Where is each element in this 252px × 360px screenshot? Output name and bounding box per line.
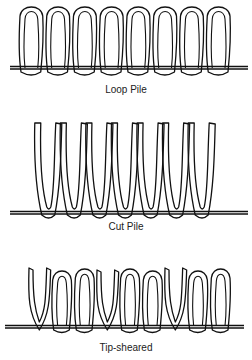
- tip-sheared-illustration: [0, 260, 252, 340]
- loop-pile-diagram: Loop Pile: [0, 0, 252, 100]
- loop-inner: [131, 12, 146, 69]
- cut-tuft: [35, 123, 62, 218]
- tip-loop-outer: [188, 271, 208, 333]
- loop-outer: [206, 7, 230, 75]
- loop-outer: [73, 7, 97, 75]
- loop-outer: [19, 7, 43, 75]
- tip-sheared-diagram: Tip-sheared: [0, 260, 252, 360]
- tip-loop-inner: [193, 276, 204, 326]
- tip-cut-tuft: [165, 268, 187, 330]
- loop-outer: [153, 7, 177, 75]
- loop-outer: [46, 7, 70, 75]
- loop-pile-illustration: [0, 0, 252, 80]
- cut-tuft: [86, 123, 113, 218]
- loop-inner: [184, 12, 199, 69]
- loop-pile-label: Loop Pile: [0, 84, 252, 95]
- loop-inner: [211, 12, 226, 69]
- tip-loop-inner: [215, 274, 226, 326]
- loop-inner: [77, 12, 92, 69]
- loop-inner: [158, 12, 173, 69]
- tip-cut-tuft: [97, 270, 119, 330]
- cut-pile-diagram: Cut Pile: [0, 115, 252, 240]
- tip-loop-inner: [125, 274, 136, 326]
- loop-inner: [51, 12, 66, 69]
- loop-outer: [180, 7, 204, 75]
- tip-loop-inner: [147, 276, 158, 326]
- cut-tuft: [188, 123, 215, 218]
- loop-inner: [24, 12, 39, 69]
- tip-loop-outer: [120, 269, 140, 333]
- loop-outer: [99, 7, 123, 75]
- tip-loop-inner: [79, 274, 90, 326]
- tip-loop-outer: [142, 271, 162, 333]
- tip-loop-outer: [52, 271, 72, 333]
- cut-pile-label: Cut Pile: [0, 221, 252, 232]
- loop-outer: [126, 7, 150, 75]
- tip-cut-tuft: [29, 268, 51, 330]
- tip-loop-inner: [57, 276, 68, 326]
- cut-tuft: [162, 123, 189, 218]
- cut-tuft: [111, 123, 138, 218]
- cut-tuft: [137, 123, 164, 218]
- cut-pile-illustration: [0, 115, 252, 220]
- loop-inner: [104, 12, 119, 69]
- tip-loop-outer: [210, 269, 230, 333]
- cut-tuft: [60, 123, 87, 218]
- tip-sheared-label: Tip-sheared: [0, 342, 252, 353]
- tip-loop-outer: [74, 269, 94, 333]
